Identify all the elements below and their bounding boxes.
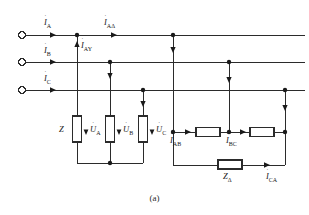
arrow-i-a-delta <box>111 32 117 37</box>
label-i-a-wye: ˙IAY <box>81 41 92 52</box>
arrow-u-c <box>150 130 155 136</box>
label-u-c: ˙UC <box>156 125 166 136</box>
label-i-a-wye-sub: AY <box>84 46 92 52</box>
terminal-circle-b <box>19 59 25 65</box>
node-b-wye-tap <box>108 60 112 64</box>
impedance-zca <box>218 160 242 169</box>
label-i-bc-sub: BC <box>229 141 237 147</box>
circuit-schematic <box>0 0 309 215</box>
label-z-wye-symbol: Z <box>59 124 64 134</box>
arrow-i-ab <box>185 129 191 134</box>
terminal-circle-a <box>19 32 25 38</box>
phasor-dot-i-bc: ˙ <box>226 132 228 139</box>
label-i-ca: ˙ICA <box>266 172 277 183</box>
label-i-c-sub: C <box>47 79 51 85</box>
phasor-dot-i-b: ˙ <box>44 42 46 49</box>
label-i-b-sub: B <box>47 51 51 57</box>
arrow-u-a <box>84 130 89 136</box>
figure-caption: (a) <box>0 193 309 203</box>
node-c-wye-tap <box>141 88 145 92</box>
phasor-dot-u-a: ˙ <box>92 121 94 128</box>
label-i-a-delta: ˙IAΔ <box>104 18 115 29</box>
node-a-wye-tap <box>75 33 79 37</box>
arrow-i-bc <box>240 129 246 134</box>
label-u-c-sub: C <box>162 130 166 136</box>
node-b-delta-tap <box>227 60 231 64</box>
arrow-delta-feeder-c <box>282 105 287 111</box>
phasor-dot-u-b: ˙ <box>125 121 127 128</box>
arrow-delta-feeder-a <box>170 47 175 53</box>
impedance-zbc <box>250 128 274 137</box>
arrow-wye-b <box>107 73 112 79</box>
label-u-b-sub: B <box>129 130 133 136</box>
label-u-a-sub: A <box>96 130 100 136</box>
arrow-i-b <box>50 59 56 64</box>
node-delta-ca <box>283 130 287 134</box>
phasor-dot-i-a-wye: ˙ <box>81 37 83 44</box>
arrow-i-c <box>50 87 56 92</box>
phasor-dot-i-c: ˙ <box>44 70 46 77</box>
label-z-delta-sub: Δ <box>228 177 232 183</box>
label-z-wye: Z <box>59 125 64 134</box>
phasor-dot-i-ca: ˙ <box>266 168 268 175</box>
phasor-dot-i-a: ˙ <box>44 14 46 21</box>
label-u-b: ˙UB <box>123 125 133 136</box>
label-i-ab-sub: AB <box>173 141 181 147</box>
figure-three-phase-circuit: ˙IA ˙IB ˙IC ˙IAΔ ˙IAY Z ˙UA ˙UB ˙UC ˙IAB… <box>0 0 309 215</box>
label-i-a-sub: A <box>47 23 51 29</box>
label-i-ab: ˙IAB <box>170 136 181 147</box>
phasor-dot-i-a-delta: ˙ <box>104 14 106 21</box>
label-i-b: ˙IB <box>44 46 51 57</box>
label-i-a-delta-sub: AΔ <box>107 23 115 29</box>
arrow-delta-feeder-b <box>226 77 231 83</box>
impedance-za <box>73 116 82 142</box>
phasor-dot-i-ab: ˙ <box>170 132 172 139</box>
label-i-bc: ˙IBC <box>226 136 237 147</box>
phasor-dot-u-c: ˙ <box>158 121 160 128</box>
label-i-c: ˙IC <box>44 74 51 85</box>
current-arrow-group <box>50 32 288 167</box>
arrow-i-a <box>50 32 56 37</box>
impedance-zb <box>106 116 115 142</box>
impedance-zc <box>139 116 148 142</box>
node-a-delta-tap <box>171 33 175 37</box>
arrow-wye-c <box>140 101 145 107</box>
label-u-a: ˙UA <box>90 125 100 136</box>
impedance-zab <box>196 128 220 137</box>
label-z-delta: ZΔ <box>223 172 232 183</box>
label-i-a: ˙IA <box>44 18 51 29</box>
node-c-delta-tap <box>283 88 287 92</box>
arrow-u-b <box>117 130 122 136</box>
arrow-i-a-wye <box>74 41 79 47</box>
node-wye-neutral <box>108 161 112 165</box>
label-i-ca-sub: CA <box>269 177 277 183</box>
terminal-circle-c <box>19 87 25 93</box>
